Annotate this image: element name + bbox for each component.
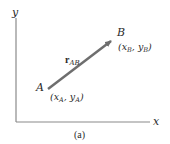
y-axis-label: y <box>11 6 19 19</box>
point-b-label: B <box>116 26 125 39</box>
vector-label: rAB <box>65 54 80 67</box>
figure-caption: (a) <box>74 129 85 141</box>
x-axis-label: x <box>153 115 160 128</box>
point-a-label: A <box>35 81 44 94</box>
point-a-coords: (xA, yA) <box>50 91 84 104</box>
position-vector-diagram: y x rAB A (xA, yA) B (xB, yB) (a) <box>0 0 170 144</box>
point-b-coords: (xB, yB) <box>118 41 152 54</box>
